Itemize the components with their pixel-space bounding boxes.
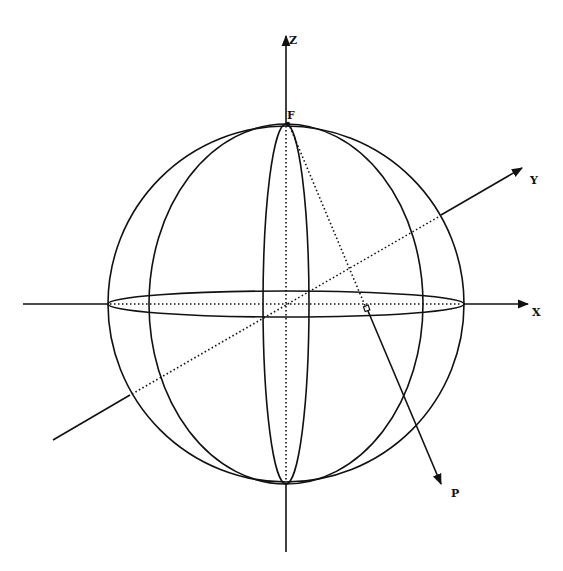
pole-label: F	[287, 109, 295, 122]
z-axis-label: Z	[289, 34, 297, 47]
x-axis-label: X	[532, 306, 541, 319]
projection-line-solid	[368, 311, 441, 484]
projection-line-dotted	[290, 127, 366, 308]
pole-point-f	[286, 122, 290, 126]
projection-marker	[363, 305, 369, 311]
sphere-diagram: Z X Y F P	[0, 0, 563, 571]
projected-point-label: P	[451, 487, 459, 500]
y-axis-label: Y	[529, 174, 538, 187]
y-axis-upper	[441, 168, 522, 215]
y-axis-lower	[53, 395, 130, 440]
